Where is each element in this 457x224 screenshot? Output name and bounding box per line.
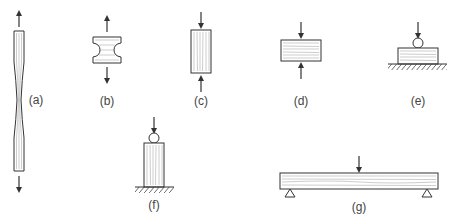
label-b: (b)	[100, 94, 115, 108]
wood-loading-diagram	[0, 0, 457, 224]
panel-c	[191, 12, 211, 92]
ground-hatch	[388, 64, 447, 70]
roller-icon	[149, 133, 159, 143]
label-c: (c)	[194, 94, 208, 108]
pin-support-right-icon	[422, 189, 432, 197]
panel-e	[388, 22, 447, 70]
panel-b	[93, 18, 121, 81]
pin-support-left-icon	[285, 189, 295, 197]
panel-d	[281, 22, 321, 79]
label-e: (e)	[411, 94, 426, 108]
horizontal-grain-block	[398, 48, 438, 64]
label-f: (f)	[148, 198, 159, 212]
label-a: (a)	[29, 93, 44, 107]
label-d: (d)	[294, 94, 309, 108]
ground-hatch	[135, 187, 174, 193]
panel-g	[280, 156, 438, 197]
roller-icon	[413, 38, 423, 48]
panel-a	[14, 13, 24, 190]
panel-f	[135, 117, 174, 193]
label-g: (g)	[352, 200, 367, 214]
beam	[280, 173, 438, 189]
